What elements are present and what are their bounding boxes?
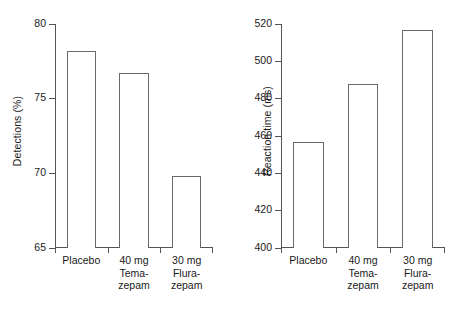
y-axis-tick-label: 65 [34,241,46,253]
bar [67,51,96,248]
y-axis-tick-label: 70 [34,166,46,178]
y-axis-tick: 80 [49,24,55,25]
bar [119,73,148,248]
y-axis-tick: 70 [49,173,55,174]
y-axis-tick-label: 440 [254,166,272,178]
x-axis-tick [390,248,391,253]
y-axis-tick-label: 400 [254,241,272,253]
y-axis-tick-label: 520 [254,17,272,29]
bar [172,176,201,248]
y-axis-tick-label: 480 [254,91,272,103]
y-axis-tick: 480 [275,98,281,99]
x-axis-tick [336,248,337,253]
y-axis-tick: 460 [275,136,281,137]
chart-panel-detections: Detections (%) 65707580 Placebo40 mg Tem… [0,0,230,311]
y-axis-tick: 520 [275,24,281,25]
x-axis-tick [55,248,56,253]
x-axis-category-label: 40 mg Tema- zepam [108,254,161,292]
bar [293,142,324,248]
plot-area-reaction-time: 400420440460480500520 [281,24,445,248]
y-axis-tick: 75 [49,98,55,99]
x-axis-category-label: 40 mg Tema- zepam [336,254,391,292]
y-axis-line [55,24,56,248]
x-axis-tick [444,248,445,253]
x-axis-tick [281,248,282,253]
y-axis-tick: 500 [275,61,281,62]
y-axis-tick: 420 [275,210,281,211]
chart-panel-reaction-time: Reaction time (ms) 400420440460480500520… [230,0,460,311]
x-axis-category-label: Placebo [55,254,108,267]
x-axis-category-label: Placebo [281,254,336,267]
y-axis-tick-label: 80 [34,17,46,29]
x-axis-tick [108,248,109,253]
y-axis-tick-label: 75 [34,91,46,103]
y-axis-tick-label: 500 [254,54,272,66]
y-axis-tick: 440 [275,173,281,174]
y-axis-line [281,24,282,248]
y-axis-title: Detections (%) [11,71,23,191]
bar [348,84,379,248]
x-axis-category-label: 30 mg Flura- zepam [390,254,445,292]
bar [402,30,433,248]
x-axis-tick [212,248,213,253]
plot-area-detections: 65707580 [55,24,213,248]
figure: Detections (%) 65707580 Placebo40 mg Tem… [0,0,460,311]
x-axis-category-label: 30 mg Flura- zepam [160,254,213,292]
x-axis-tick [160,248,161,253]
y-axis-tick-label: 460 [254,129,272,141]
y-axis-tick-label: 420 [254,203,272,215]
